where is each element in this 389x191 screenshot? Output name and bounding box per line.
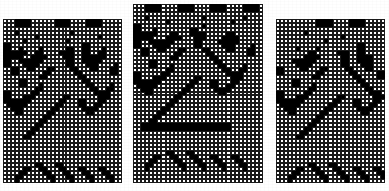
panel-middle[interactable]: [133, 4, 263, 183]
matrix-cell-empty[interactable]: [118, 179, 122, 183]
matrix-cell-empty[interactable]: [259, 179, 263, 183]
cell-matrix-figure: [0, 0, 389, 191]
matrix-cell-empty[interactable]: [381, 179, 385, 183]
panel-left[interactable]: [3, 19, 122, 183]
panel-right[interactable]: [276, 19, 385, 183]
